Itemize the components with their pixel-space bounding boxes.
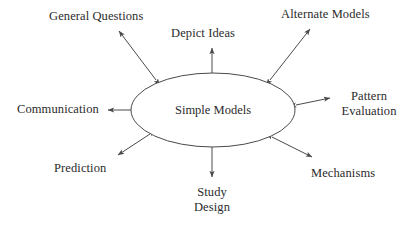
simple-models-label: Simple Models <box>168 103 258 118</box>
node-label-general-questions[interactable]: General Questions <box>49 9 143 24</box>
node-label-mechanisms[interactable]: Mechanisms <box>311 166 375 181</box>
connector-prediction <box>118 134 150 155</box>
connector-general-questions <box>119 31 156 80</box>
connector-pattern-evaluation <box>296 98 330 105</box>
node-label-pattern-evaluation-line1: Pattern <box>336 89 402 104</box>
diagram-canvas: Simple Models General Questions Depict I… <box>0 0 404 226</box>
connector-mechanisms <box>272 137 312 157</box>
node-label-depict-ideas[interactable]: Depict Ideas <box>171 26 235 41</box>
node-label-study-design[interactable]: Study Design <box>184 185 240 215</box>
node-label-communication[interactable]: Communication <box>17 102 99 117</box>
connector-alternate-models <box>270 29 310 80</box>
node-label-prediction[interactable]: Prediction <box>54 161 106 176</box>
node-label-pattern-evaluation[interactable]: Pattern Evaluation <box>336 89 402 119</box>
node-label-alternate-models[interactable]: Alternate Models <box>281 7 370 22</box>
node-label-pattern-evaluation-line2: Evaluation <box>336 104 402 119</box>
node-label-study-design-line2: Design <box>184 200 240 215</box>
node-label-study-design-line1: Study <box>184 185 240 200</box>
